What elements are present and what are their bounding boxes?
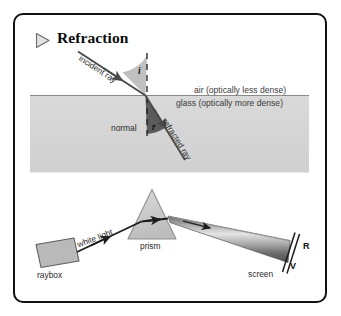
glass-medium-label: glass (optically more dense) bbox=[176, 99, 283, 108]
figure-frame bbox=[13, 13, 327, 303]
prism-label: prism bbox=[140, 242, 160, 250]
screen-label: screen bbox=[248, 270, 273, 278]
raybox-label: raybox bbox=[37, 271, 62, 279]
violet-band-label: V bbox=[290, 261, 296, 271]
normal-label: normal bbox=[111, 124, 137, 132]
angle-of-refraction-label: r bbox=[152, 122, 156, 132]
air-medium-label: air (optically less dense) bbox=[194, 86, 286, 95]
red-band-label: R bbox=[303, 241, 310, 251]
page-title: Refraction bbox=[57, 29, 129, 47]
play-triangle-icon bbox=[34, 32, 51, 49]
angle-of-incidence-label: i bbox=[138, 66, 141, 76]
refraction-figure: Refraction bbox=[0, 0, 341, 316]
